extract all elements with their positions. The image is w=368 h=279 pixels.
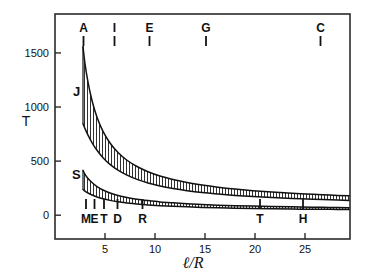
moon-label-h: H (299, 212, 308, 226)
satellite-label-g: G (201, 21, 210, 35)
x-tick-label: 25 (299, 243, 311, 255)
moon-label-e: E (90, 212, 98, 226)
moon-label-t: T (100, 212, 108, 226)
temperature-vs-distance-chart: 510152025 050010001500 AIEGC METDRTH JS … (0, 0, 368, 279)
y-axis-title: T (22, 113, 31, 129)
satellite-label-c: C (316, 21, 325, 35)
satellite-label-i: I (113, 21, 116, 35)
y-tick-label: 500 (31, 155, 49, 167)
band-label-s: S (72, 167, 81, 182)
x-tick-label: 10 (149, 243, 161, 255)
satellite-label-e: E (145, 21, 153, 35)
x-tick-label: 5 (102, 243, 108, 255)
y-tick-label: 1000 (25, 101, 49, 113)
x-axis-title: ℓ/R (183, 254, 204, 271)
chart-figure: 510152025 050010001500 AIEGC METDRTH JS … (0, 0, 368, 279)
x-axis-title-text: ℓ/R (183, 254, 204, 271)
satellite-label-a: A (79, 21, 88, 35)
moon-label-t: T (256, 212, 264, 226)
x-tick-label: 20 (249, 243, 261, 255)
y-tick-label: 0 (43, 209, 49, 221)
band-label-j: J (73, 84, 80, 99)
moon-label-r: R (138, 212, 147, 226)
y-tick-label: 1500 (25, 47, 49, 59)
moon-label-d: D (113, 212, 122, 226)
